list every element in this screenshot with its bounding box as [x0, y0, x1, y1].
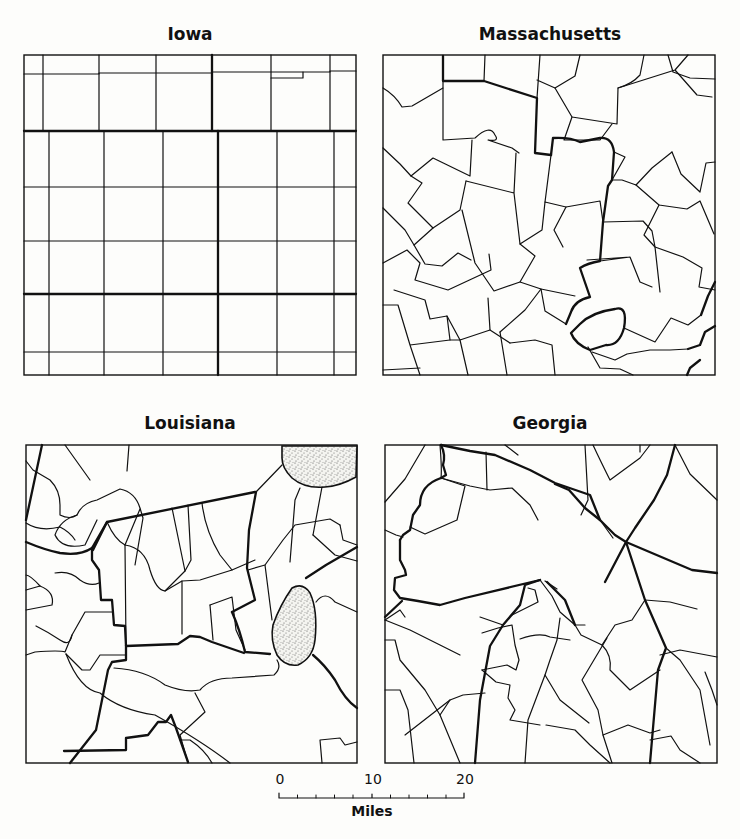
scale-unit-label: Miles: [351, 803, 392, 819]
map-georgia: [385, 445, 717, 763]
stippled-area-north: [282, 446, 357, 487]
scale-tick-10: 10: [364, 771, 382, 787]
map-massachusetts: [383, 55, 715, 375]
scale-bar: [279, 793, 464, 798]
scale-tick-20: 20: [456, 771, 474, 787]
map-iowa: [24, 55, 356, 375]
map-louisiana: [26, 445, 357, 763]
scale-tick-0: 0: [276, 771, 285, 787]
stippled-area-south: [272, 586, 316, 665]
county-maps: [0, 0, 740, 839]
